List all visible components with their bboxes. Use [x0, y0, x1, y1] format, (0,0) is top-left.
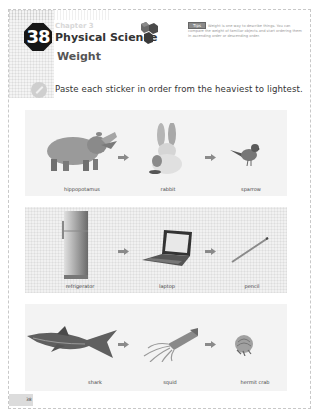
sparrow-image [230, 140, 260, 170]
item-label: hippopotamus [64, 186, 100, 192]
shark-image [27, 326, 119, 364]
laptop-image [142, 230, 194, 268]
item-label: refrigerator [66, 283, 95, 289]
sticker-panel-objects: refrigerator laptop pencil [25, 207, 287, 293]
rabbit-image [147, 123, 187, 175]
item-label: rabbit [161, 186, 176, 192]
instruction-text: Paste each sticker in order from the hea… [55, 84, 303, 94]
cubes-icon [135, 22, 159, 48]
pencil-image [231, 237, 269, 263]
squid-image [140, 328, 200, 362]
sticker-panel-animals: hippopotamus rabbit sparrow [25, 110, 287, 196]
item-label: shark [88, 379, 102, 385]
item-label: sparrow [241, 186, 261, 192]
chapter-label: Chapter 3 [55, 22, 94, 30]
header-band [9, 10, 109, 20]
arrow-right-icon [205, 154, 216, 161]
page-number: 38 [26, 397, 32, 402]
sticker-panel-sea-animals: shark squid hermit crab [25, 304, 287, 391]
item-label: pencil [245, 283, 260, 289]
tip-tag: Tips [188, 22, 206, 29]
arrow-right-icon [118, 248, 129, 255]
page-number-tab: 38 [9, 394, 33, 406]
arrow-right-icon [118, 154, 129, 161]
item-label: laptop [159, 283, 175, 289]
arrow-right-icon [205, 341, 216, 348]
chapter-number-badge: 38 [24, 23, 52, 51]
hippopotamus-image [37, 127, 119, 172]
arrow-right-icon [205, 248, 216, 255]
arrow-right-icon [118, 341, 129, 348]
item-label: squid [163, 379, 177, 385]
hermit-crab-image [233, 334, 255, 356]
item-label: hermit crab [240, 379, 269, 385]
tip-box: TipsWeight is one way to describe things… [188, 22, 306, 40]
lesson-title: Weight [57, 50, 101, 63]
pencil-bullet-icon [31, 82, 47, 98]
refrigerator-image [62, 211, 90, 279]
